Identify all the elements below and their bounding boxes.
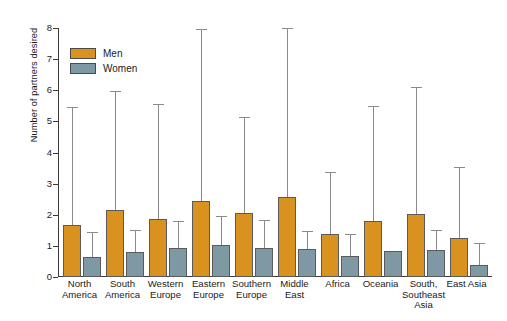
error-bar-cap (302, 231, 313, 232)
bar-women (341, 256, 359, 277)
legend-swatch-men (70, 48, 96, 59)
error-bar-cap (431, 230, 442, 231)
bar-women (212, 245, 230, 277)
y-tick-label: 7 (36, 54, 52, 64)
error-bar-line (459, 168, 460, 238)
bar-men (235, 213, 253, 277)
error-bar-cap (474, 243, 485, 244)
bar-women (384, 251, 402, 277)
error-bar-line (221, 217, 222, 245)
error-bar-cap (259, 220, 270, 221)
x-axis-label: East Asia (438, 279, 495, 290)
error-bar-cap (153, 104, 164, 105)
error-bar-line (287, 29, 288, 197)
error-bar-line (92, 233, 93, 257)
y-tick (53, 246, 58, 247)
bar-men (106, 210, 124, 277)
y-tick (53, 28, 58, 29)
y-tick (53, 277, 58, 278)
bar-women (427, 250, 445, 277)
legend: Men Women (70, 48, 137, 78)
bar-men (407, 214, 425, 277)
y-tick-label: 6 (36, 86, 52, 96)
error-bar-cap (216, 216, 227, 217)
bar-group (278, 28, 316, 277)
y-tick (53, 59, 58, 60)
error-bar-line (72, 108, 73, 224)
error-bar-line (244, 118, 245, 213)
bar-men (278, 197, 296, 277)
bar-group (450, 28, 488, 277)
error-bar-cap (110, 91, 121, 92)
error-bar-line (158, 105, 159, 219)
bar-group (192, 28, 230, 277)
y-tick (53, 153, 58, 154)
x-axis-labels: North AmericaSouth AmericaWestern Europe… (58, 279, 498, 321)
error-bar-cap (67, 107, 78, 108)
bar-group (321, 28, 359, 277)
error-bar-line (178, 222, 179, 248)
bar-men (321, 234, 339, 277)
error-bar-cap (368, 106, 379, 107)
error-bar-cap (411, 87, 422, 88)
error-bar-line (307, 232, 308, 249)
y-tick-label: 0 (36, 272, 52, 282)
error-bar-line (373, 107, 374, 221)
legend-swatch-women (70, 63, 96, 74)
y-axis-line (58, 28, 59, 277)
error-bar-line (350, 235, 351, 256)
bar-group (364, 28, 402, 277)
y-tick (53, 121, 58, 122)
error-bar-line (330, 173, 331, 234)
bar-men (63, 225, 81, 277)
bar-men (364, 221, 382, 277)
bar-chart: Number of partners desired 012345678 Men… (0, 0, 507, 321)
bar-group (235, 28, 273, 277)
bar-women (298, 249, 316, 277)
bar-women (255, 248, 273, 277)
bar-group (149, 28, 187, 277)
error-bar-cap (345, 234, 356, 235)
legend-label-men: Men (103, 48, 122, 59)
y-tick (53, 90, 58, 91)
error-bar-line (479, 244, 480, 265)
error-bar-line (201, 30, 202, 201)
error-bar-line (115, 92, 116, 211)
error-bar-line (416, 88, 417, 214)
error-bar-cap (239, 117, 250, 118)
y-tick-label: 3 (36, 179, 52, 189)
legend-label-women: Women (103, 63, 137, 74)
error-bar-cap (454, 167, 465, 168)
error-bar-cap (325, 172, 336, 173)
error-bar-cap (282, 28, 293, 29)
error-bar-line (264, 221, 265, 249)
y-tick (53, 215, 58, 216)
error-bar-cap (130, 230, 141, 231)
error-bar-cap (87, 232, 98, 233)
bar-men (149, 219, 167, 277)
error-bar-cap (173, 221, 184, 222)
bar-women (83, 257, 101, 277)
legend-item-women: Women (70, 63, 137, 74)
y-tick-label: 2 (36, 210, 52, 220)
y-tick-label: 5 (36, 117, 52, 127)
y-tick (53, 184, 58, 185)
bar-men (450, 238, 468, 277)
legend-item-men: Men (70, 48, 137, 59)
y-tick-label: 8 (36, 23, 52, 33)
bar-group (407, 28, 445, 277)
error-bar-line (436, 231, 437, 249)
bar-women (126, 252, 144, 277)
error-bar-cap (196, 29, 207, 30)
y-tick-label: 1 (36, 241, 52, 251)
bar-men (192, 201, 210, 277)
error-bar-line (135, 231, 136, 252)
bar-women (169, 248, 187, 277)
plot-area: 012345678 Men Women (58, 28, 488, 277)
bar-women (470, 265, 488, 277)
y-tick-label: 4 (36, 148, 52, 158)
